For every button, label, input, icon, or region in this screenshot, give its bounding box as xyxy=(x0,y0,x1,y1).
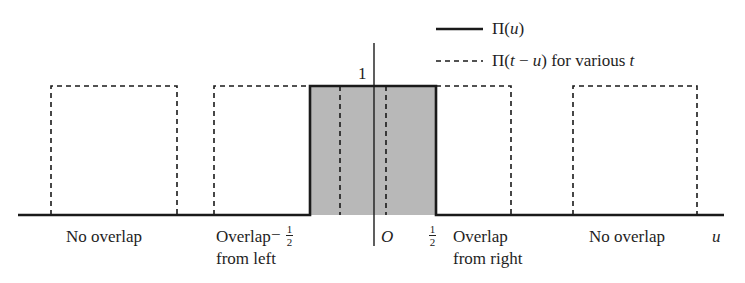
overlap-right-line2: from right xyxy=(453,249,522,268)
legend-dashed-u: u xyxy=(533,51,542,70)
dashed-box-overlap-left xyxy=(214,86,310,215)
no-overlap-left-label: No overlap xyxy=(66,227,142,246)
overlap-left-line1: Overlap xyxy=(216,227,271,246)
overlap-right-line1: Overlap xyxy=(453,227,508,246)
no-overlap-right-label: No overlap xyxy=(589,227,665,246)
legend-dashed-pre: Π( xyxy=(492,51,510,70)
legend-solid-pre: Π( xyxy=(492,19,510,38)
legend-dashed-mid: ) for various xyxy=(541,51,629,70)
height-label: 1 xyxy=(358,64,367,83)
convolution-diagram: Π(u) Π(t − u) for various t 1 − 1 2 O 1 … xyxy=(0,0,745,283)
neg-sign: − xyxy=(271,225,281,245)
neg-half-fraction: 1 2 xyxy=(286,224,293,247)
pos-half-num: 1 xyxy=(430,224,436,234)
pos-half-fraction: 1 2 xyxy=(429,224,436,247)
dashed-box-no-overlap-right xyxy=(573,86,697,215)
neg-half-num: 1 xyxy=(287,224,293,234)
legend-solid-post: ) xyxy=(518,19,524,38)
shaded-region xyxy=(310,86,436,215)
legend-solid-label: Π(u) xyxy=(492,19,524,38)
dashed-box-no-overlap-left xyxy=(51,86,177,215)
legend-dashed-t2: t xyxy=(630,51,635,70)
origin-label: O xyxy=(381,227,393,246)
legend-dashed-label: Π(t − u) for various t xyxy=(492,51,634,70)
neg-half-den: 2 xyxy=(287,237,293,247)
legend-dashed-minus: − xyxy=(515,51,533,70)
overlap-left-line2: from left xyxy=(216,249,276,268)
dashed-box-overlap-right xyxy=(436,86,511,215)
pos-half-den: 2 xyxy=(430,237,436,247)
x-axis-label: u xyxy=(712,227,721,246)
